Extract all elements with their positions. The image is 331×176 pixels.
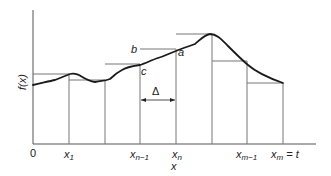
rectangle-m-1 — [212, 61, 247, 144]
rectangle-m — [247, 83, 283, 144]
point-label-c: c — [141, 65, 147, 77]
x-axis-label: x — [170, 160, 177, 172]
origin-label: 0 — [30, 147, 36, 159]
delta-interval-marker: Δ — [141, 85, 175, 102]
tick-label-x1: x1 — [63, 148, 74, 162]
tick-label-x-m-1: xm−1 — [235, 148, 257, 162]
rectangle-3 — [105, 64, 140, 144]
arrowhead-left-icon — [141, 98, 146, 102]
point-label-b: b — [131, 43, 137, 55]
point-label-a: a — [178, 46, 184, 58]
tick-label-x-m: xm = t — [270, 148, 300, 162]
tick-label-x-n-1: xn−1 — [129, 148, 149, 162]
y-axis-label: f(x) — [16, 74, 28, 90]
arrowhead-right-icon — [170, 98, 175, 102]
riemann-diagram: Δ b a c f(x) 0 x1 xn−1 xn xm−1 xm = t x — [0, 0, 331, 176]
delta-label: Δ — [152, 85, 160, 97]
rectangle-2 — [69, 80, 105, 144]
function-curve — [33, 34, 283, 85]
